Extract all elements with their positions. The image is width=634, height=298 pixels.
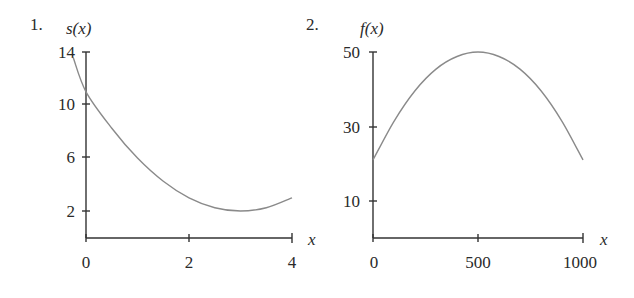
chart-1-curve	[73, 57, 292, 211]
svg-text:6: 6	[67, 148, 76, 167]
chart-1-y-tick-labels: 14 10 6 2	[58, 43, 76, 221]
svg-text:14: 14	[58, 43, 76, 62]
svg-text:4: 4	[288, 253, 297, 272]
chart-1-number: 1.	[30, 15, 43, 34]
chart-2-curve	[373, 52, 583, 160]
chart-1-x-tick-labels: 0 2 4	[82, 253, 297, 272]
chart-1: 1. s(x) x 14 10 6 2 0 2 4	[30, 15, 316, 272]
chart-1-ylabel: s(x)	[66, 19, 92, 38]
chart-1-xlabel: x	[307, 230, 316, 249]
chart-2-ylabel: f(x)	[360, 19, 384, 38]
svg-text:0: 0	[82, 253, 91, 272]
svg-text:10: 10	[343, 192, 360, 211]
svg-text:10: 10	[58, 95, 75, 114]
svg-text:1000: 1000	[563, 253, 597, 272]
chart-2-xlabel: x	[599, 230, 608, 249]
svg-text:0: 0	[370, 253, 379, 272]
svg-text:30: 30	[343, 118, 360, 137]
chart-2-y-tick-labels: 50 30 10	[343, 43, 360, 211]
chart-2-x-tick-labels: 0 500 1000	[370, 253, 597, 272]
svg-text:500: 500	[465, 253, 491, 272]
chart-2-number: 2.	[306, 15, 319, 34]
chart-2: 2. f(x) x 50 30 10 0 500 1000	[306, 15, 608, 272]
svg-text:2: 2	[67, 202, 76, 221]
svg-text:2: 2	[185, 253, 194, 272]
svg-text:50: 50	[343, 43, 360, 62]
figure: 1. s(x) x 14 10 6 2 0 2 4	[0, 0, 634, 298]
